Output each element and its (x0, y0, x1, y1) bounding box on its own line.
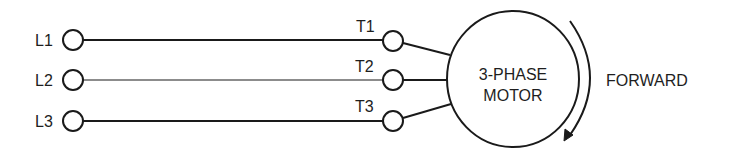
lead-t3 (403, 104, 451, 118)
terminal-l1-icon (63, 30, 83, 50)
terminal-t3-icon (383, 111, 403, 131)
terminal-l2-icon (63, 70, 83, 90)
label-l1: L1 (35, 32, 53, 49)
motor-label-line2: MOTOR (483, 87, 542, 104)
label-t2: T2 (355, 58, 374, 75)
terminal-l3-icon (63, 111, 83, 131)
direction-label: FORWARD (606, 72, 688, 89)
lead-t1 (403, 43, 450, 55)
label-t3: T3 (355, 98, 374, 115)
terminal-t2-icon (383, 70, 403, 90)
label-l2: L2 (35, 72, 53, 89)
label-t1: T1 (356, 18, 375, 35)
motor-wiring-diagram: L1 L2 L3 T1 T2 T3 3-PHASE MOTOR FORWARD (0, 0, 730, 153)
motor-label-line1: 3-PHASE (479, 66, 547, 83)
label-l3: L3 (35, 113, 53, 130)
terminal-t1-icon (383, 31, 403, 51)
